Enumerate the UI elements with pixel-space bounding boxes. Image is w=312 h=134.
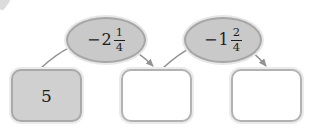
start-value: 5 [41,86,52,106]
fraction-numerator: 2 [231,27,242,40]
whole-number: 2 [101,32,111,48]
operation-2-value: − 1 2 4 [204,27,242,54]
start-value-box: 5 [11,69,82,122]
minus-sign: − [87,32,100,48]
fraction: 1 4 [114,27,125,54]
operation-bubble-2: − 1 2 4 [184,17,262,63]
fraction-denominator: 4 [231,40,242,54]
operation-1-value: − 2 1 4 [87,27,125,54]
fraction-numerator: 1 [114,27,125,40]
sequence-diagram: − 2 1 4 − 1 2 4 5 [0,0,312,134]
answer-box-2[interactable] [231,69,302,122]
minus-sign: − [204,32,217,48]
fraction-denominator: 4 [114,40,125,54]
operation-bubble-1: − 2 1 4 [66,17,146,63]
fraction: 2 4 [231,27,242,54]
answer-box-1[interactable] [121,69,192,122]
whole-number: 1 [218,32,228,48]
